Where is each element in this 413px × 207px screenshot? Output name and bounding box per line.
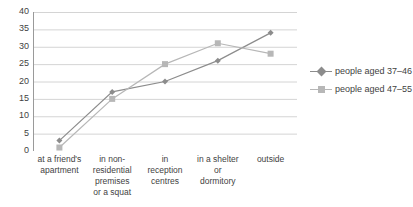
y-axis-tick-label: 0 [7,146,29,155]
x-axis-category-label-line: outside [240,154,302,165]
data-point-marker-diamond [268,30,274,36]
legend-marker-icon [310,83,332,95]
legend: people aged 37–46people aged 47–55 [310,62,410,98]
legend-item-1[interactable]: people aged 37–46 [310,62,410,80]
legend-label: people aged 47–55 [332,84,412,94]
y-axis-tick-label: 40 [7,7,29,16]
data-point-marker-diamond [162,79,168,85]
y-axis-tick-label: 25 [7,59,29,68]
legend-marker-icon [310,65,332,77]
y-axis-tick-label: 10 [7,111,29,120]
y-axis: 4035302520151050 [4,12,29,151]
y-axis-tick-label: 15 [7,94,29,103]
legend-square-icon [318,86,325,93]
data-point-marker-square [268,51,274,57]
data-point-marker-square [215,40,221,46]
y-axis-tick-label: 20 [7,77,29,86]
data-point-marker-diamond [215,58,221,64]
x-axis-category-label-line: or [187,165,249,176]
x-axis-category-label-line: or a squat [81,187,143,198]
data-point-marker-square [56,145,62,151]
y-axis-tick-label: 30 [7,42,29,51]
series-line-1 [59,33,270,141]
data-point-marker-square [109,96,115,102]
y-axis-tick-label: 5 [7,129,29,138]
x-axis: at a friend'sapartmentin non-residential… [33,154,297,204]
line-chart: 4035302520151050 at a friend'sapartmenti… [0,0,413,207]
data-point-marker-square [162,61,168,67]
x-axis-category-label-line: dormitory [187,176,249,187]
legend-item-2[interactable]: people aged 47–55 [310,80,410,98]
series-line-2 [59,43,270,147]
plot-area [33,12,297,151]
y-axis-tick-label: 35 [7,24,29,33]
legend-label: people aged 37–46 [332,66,412,76]
x-axis-category-label: outside [240,154,302,165]
chart-canvas [33,12,297,151]
legend-diamond-icon [317,66,327,76]
